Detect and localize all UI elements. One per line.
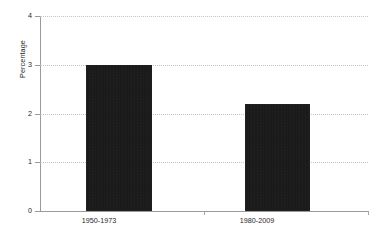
y-tick-mark-0 [35, 211, 40, 212]
x-tick-label-1980-2009: 1980-2009 [217, 216, 297, 225]
y-tick-label-0: 0 [6, 207, 32, 215]
gridline-4 [40, 16, 368, 17]
x-tick-mark-right [368, 211, 369, 215]
y-tick-label-4: 4 [6, 12, 32, 20]
y-tick-label-3: 3 [6, 61, 32, 69]
x-tick-label-1950-1973: 1950-1973 [59, 216, 139, 225]
y-tick-mark-1 [35, 162, 40, 163]
y-tick-mark-3 [35, 65, 40, 66]
bar-1980-2009 [245, 104, 310, 211]
bar-1950-1973 [86, 65, 152, 211]
x-tick-mark-middle [204, 211, 205, 215]
y-tick-label-2: 2 [6, 110, 32, 118]
y-tick-mark-4 [35, 16, 40, 17]
y-axis-title: Percentage [16, 19, 30, 99]
y-tick-label-1: 1 [6, 158, 32, 166]
plot-area [40, 16, 368, 211]
bar-chart: Percentage 4 3 2 1 0 1950-1973 1980-2009 [0, 0, 376, 244]
y-tick-mark-2 [35, 114, 40, 115]
